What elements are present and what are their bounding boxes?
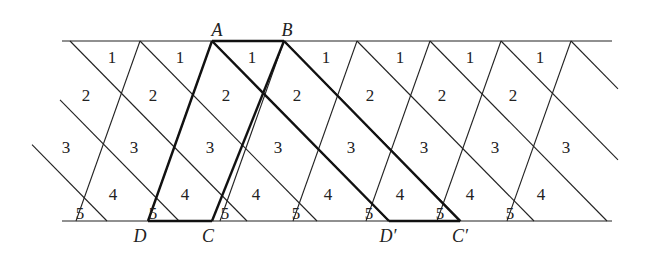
diagonal-line <box>60 100 179 221</box>
edge-cb <box>212 41 284 221</box>
region-label-3: 3 <box>62 138 71 157</box>
diagonal-line <box>571 41 618 89</box>
diagonal-line <box>430 41 607 221</box>
region-label-5: 5 <box>149 204 158 223</box>
region-label-5: 5 <box>292 204 301 223</box>
region-label-1: 1 <box>536 48 545 67</box>
diagonal-line <box>501 41 618 160</box>
region-label-3: 3 <box>347 138 356 157</box>
point-label-a: A <box>211 20 224 40</box>
region-label-2: 2 <box>82 86 91 105</box>
region-label-2: 2 <box>438 86 447 105</box>
region-label-3: 3 <box>562 138 571 157</box>
point-label-c: C <box>202 226 215 246</box>
point-label-b: B <box>282 20 293 40</box>
point-label-d-prime: D′ <box>379 226 398 246</box>
region-label-4: 4 <box>396 185 405 204</box>
region-label-2: 2 <box>366 86 375 105</box>
region-label-5: 5 <box>506 204 515 223</box>
region-label-4: 4 <box>324 185 333 204</box>
region-label-2: 2 <box>149 86 158 105</box>
region-label-5: 5 <box>436 204 445 223</box>
region-label-4: 4 <box>537 185 546 204</box>
region-label-1: 1 <box>176 48 185 67</box>
region-label-3: 3 <box>491 138 500 157</box>
region-label-5: 5 <box>365 204 374 223</box>
region-label-5: 5 <box>76 204 85 223</box>
geometry-figure: 111111122222223333333344444445555555 A B… <box>0 0 649 263</box>
diagonal-line <box>357 41 534 221</box>
region-label-4: 4 <box>181 185 190 204</box>
region-label-1: 1 <box>248 48 257 67</box>
region-label-1: 1 <box>108 48 117 67</box>
region-label-3: 3 <box>130 138 139 157</box>
region-label-1: 1 <box>396 48 405 67</box>
region-label-3: 3 <box>206 138 215 157</box>
region-label-1: 1 <box>466 48 475 67</box>
region-label-4: 4 <box>252 185 261 204</box>
diagonal-line <box>140 41 317 221</box>
region-label-2: 2 <box>222 86 231 105</box>
point-label-c-prime: C′ <box>452 226 469 246</box>
point-label-d: D <box>133 226 147 246</box>
edge-ad-prime <box>212 41 389 221</box>
region-label-2: 2 <box>293 86 302 105</box>
region-label-1: 1 <box>322 48 331 67</box>
region-label-4: 4 <box>109 185 118 204</box>
region-label-4: 4 <box>466 185 475 204</box>
edge-bc-prime <box>284 41 460 221</box>
highlighted-parallelograms <box>148 41 460 221</box>
region-label-3: 3 <box>420 138 429 157</box>
region-label-3: 3 <box>274 138 283 157</box>
region-label-2: 2 <box>509 86 518 105</box>
region-label-5: 5 <box>221 204 230 223</box>
